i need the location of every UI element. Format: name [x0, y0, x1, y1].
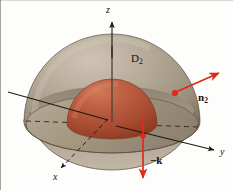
- hemisphere-figure: z y x D2 n2 −k: [0, 0, 233, 190]
- z-axis-label: z: [106, 5, 110, 15]
- region-label-base: D: [131, 52, 139, 64]
- top-border-edge: [0, 0, 233, 1]
- normal-vector-label-subscript: 2: [204, 96, 208, 105]
- normal-vector-label: n2: [198, 92, 208, 104]
- y-axis-label: y: [220, 147, 224, 157]
- x-axis-label: x: [53, 172, 57, 182]
- region-label-subscript: 2: [139, 57, 143, 66]
- left-border-edge: [0, 0, 1, 190]
- k-vector-label: −k: [150, 155, 162, 166]
- region-label-d2: D2: [131, 53, 143, 65]
